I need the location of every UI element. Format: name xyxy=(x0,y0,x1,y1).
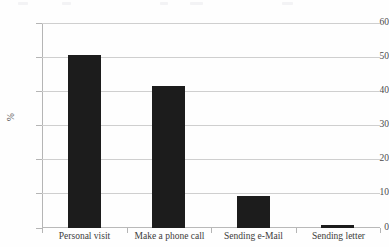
bar-personal-visit xyxy=(68,55,101,228)
scan-artifact xyxy=(282,2,293,5)
y-axis-title: % xyxy=(6,104,16,130)
x-axis-label-make-a-phone-call: Make a phone call xyxy=(127,232,212,242)
scan-artifact xyxy=(160,2,168,5)
x-axis-label-sending-letter: Sending letter xyxy=(296,232,381,242)
x-axis-label-personal-visit: Personal visit xyxy=(42,232,127,242)
scan-artifact xyxy=(18,2,28,5)
bar-sending-letter xyxy=(321,225,354,228)
scan-artifact xyxy=(62,2,71,5)
gridline-60 xyxy=(42,23,380,24)
plot-area xyxy=(42,23,380,228)
x-axis-label-sending-e-mail: Sending e-Mail xyxy=(211,232,296,242)
bar-chart-figure: % 60 50 40 30 20 10 0 Personal visit Mak… xyxy=(0,0,389,247)
bar-sending-e-mail xyxy=(237,196,270,228)
scan-artifact xyxy=(190,2,203,5)
bar-make-a-phone-call xyxy=(152,86,185,229)
